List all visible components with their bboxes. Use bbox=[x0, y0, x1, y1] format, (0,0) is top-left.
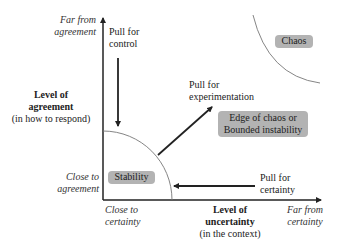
pull-for-certainty-label: Pull for certainty bbox=[260, 172, 295, 196]
y-axis-title: Level of agreement (in how to respond) bbox=[0, 89, 102, 125]
x-title-line-2: uncertainty bbox=[180, 216, 280, 228]
chaos-boundary-arc bbox=[253, 15, 320, 83]
experimentation-line-1: Pull for bbox=[189, 79, 254, 91]
y-title-line-1: Level of bbox=[0, 89, 102, 101]
x-near-line-2: certainty bbox=[105, 216, 141, 228]
stability-boundary-arc bbox=[103, 131, 172, 200]
edge-line-1: Edge of chaos or bbox=[218, 112, 308, 124]
y-near-line-2: agreement bbox=[57, 183, 99, 195]
experimentation-line-2: experimentation bbox=[189, 91, 254, 103]
x-far-line-2: certainty bbox=[281, 216, 329, 228]
y-title-line-2: agreement bbox=[0, 101, 102, 113]
zone-edge-of-chaos: Edge of chaos or Bounded instability bbox=[218, 111, 308, 137]
y-far-line-2: agreement bbox=[54, 26, 96, 38]
x-near-line-1: Close to bbox=[105, 204, 141, 216]
x-axis-title: Level of uncertainty (in the context) bbox=[180, 204, 280, 240]
y-near-line-1: Close to bbox=[57, 171, 99, 183]
control-line-2: control bbox=[109, 38, 139, 50]
y-axis-far-label: Far from agreement bbox=[54, 14, 96, 38]
zone-stability: Stability bbox=[108, 171, 155, 184]
y-axis-near-label: Close to agreement bbox=[57, 171, 99, 195]
x-far-line-1: Far from bbox=[281, 204, 329, 216]
control-line-1: Pull for bbox=[109, 26, 139, 38]
pull-for-control-label: Pull for control bbox=[109, 26, 139, 50]
x-axis-far-label: Far from certainty bbox=[281, 204, 329, 228]
edge-line-2: Bounded instability bbox=[218, 124, 308, 136]
zone-chaos: Chaos bbox=[275, 35, 313, 48]
diagram-canvas: Far from agreement Level of agreement (i… bbox=[0, 0, 339, 252]
pull-for-experimentation-label: Pull for experimentation bbox=[189, 79, 254, 103]
x-axis-near-label: Close to certainty bbox=[105, 204, 141, 228]
y-axis-subtitle: (in how to respond) bbox=[0, 113, 102, 125]
pull-for-experimentation-arrow bbox=[158, 107, 212, 155]
x-title-line-1: Level of bbox=[180, 204, 280, 216]
certainty-line-1: Pull for bbox=[260, 172, 295, 184]
y-far-line-1: Far from bbox=[54, 14, 96, 26]
x-axis-subtitle: (in the context) bbox=[180, 228, 280, 240]
certainty-line-2: certainty bbox=[260, 184, 295, 196]
